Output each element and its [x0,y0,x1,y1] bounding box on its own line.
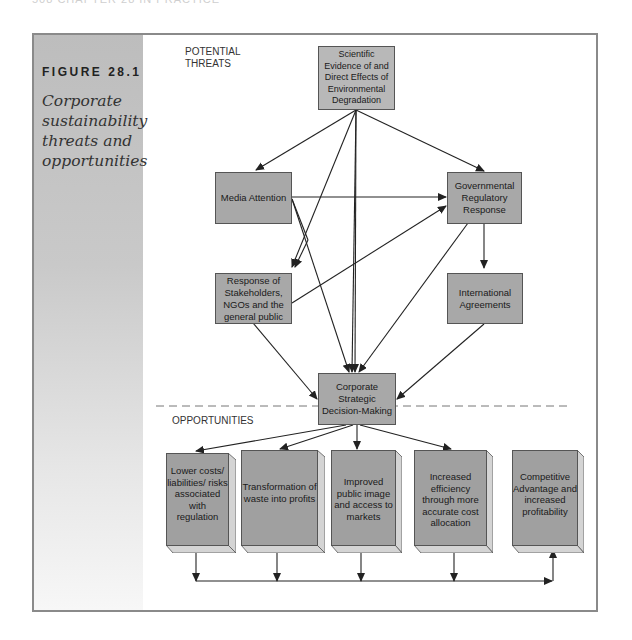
opportunity-lower-costs: Lower costs/ liabilities/ risks associat… [166,453,236,553]
page-header: 508 CHAPTER 28 IN PRACTICE [32,0,220,5]
opportunity-label: Transformation of waste into profits [241,450,318,546]
potential-threats-label: POTENTIAL THREATS [185,46,255,70]
opportunity-label: Lower costs/ liabilities/ risks associat… [166,453,229,546]
opportunity-label: Competitive Advantage and increased prof… [512,450,578,546]
opportunity-label: Improved public image and access to mark… [331,450,396,546]
figure-caption: Corporate sustainability threats and opp… [42,91,142,171]
opportunity-public-image: Improved public image and access to mark… [331,450,402,553]
node-corporate-decision-making: Corporate Strategic Decision-Making [318,373,396,425]
opportunity-waste-to-profits: Transformation of waste into profits [241,450,325,553]
opportunity-label: Increased efficiency through more accura… [414,450,487,546]
node-scientific-evidence: Scientific Evidence of and Direct Effect… [318,46,395,110]
figure-number: FIGURE 28.1 [42,65,142,79]
figure-side-panel: FIGURE 28.1 Corporate sustainability thr… [34,35,143,610]
node-governmental-regulatory-response: Governmental Regulatory Response [447,172,522,224]
node-media-attention: Media Attention [215,172,292,224]
opportunity-efficiency: Increased efficiency through more accura… [414,450,493,553]
node-international-agreements: International Agreements [447,273,523,324]
node-stakeholders-response: Response of Stakeholders, NGOs and the g… [215,273,292,324]
opportunity-competitive-advantage: Competitive Advantage and increased prof… [512,450,584,553]
opportunities-label: OPPORTUNITIES [172,415,254,427]
